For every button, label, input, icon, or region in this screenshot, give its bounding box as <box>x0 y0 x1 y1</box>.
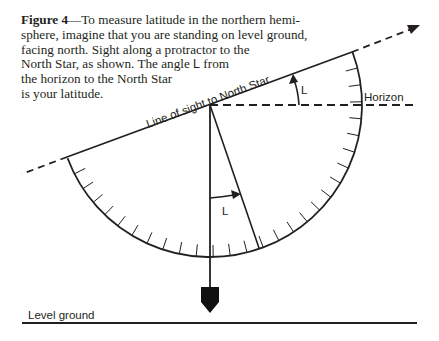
protractor-tick <box>273 230 278 241</box>
protractor-tick <box>287 222 294 232</box>
protractor-tick <box>118 216 125 226</box>
protractor-tick <box>337 163 348 168</box>
horizon-label: Horizon <box>364 91 404 103</box>
protractor-tick <box>349 85 361 87</box>
protractor-tick <box>163 238 167 249</box>
protractor-tick <box>349 118 361 119</box>
protractor-tick <box>196 244 197 256</box>
protractor-tick <box>311 202 320 210</box>
level-ground-label: Level ground <box>28 309 95 321</box>
protractor-tick <box>259 236 263 247</box>
protractor-reading-line <box>210 105 259 248</box>
upper-angle-label: L <box>301 84 308 96</box>
protractor-tick <box>147 232 152 243</box>
latitude-diagram: Horizon Line of sight to North Star L L … <box>0 0 439 341</box>
protractor-tick <box>321 190 331 197</box>
protractor-tick <box>330 177 340 183</box>
protractor-tick <box>93 195 102 203</box>
lower-angle-label: L <box>222 205 229 217</box>
protractor-arc <box>68 52 362 257</box>
protractor-tick <box>244 241 247 253</box>
protractor-tick <box>229 244 231 256</box>
protractor-tick <box>343 148 354 152</box>
lower-angle-arrow <box>210 195 234 198</box>
line-of-sight-dashed-right <box>352 28 414 52</box>
protractor-tick <box>347 133 359 135</box>
protractor-tick <box>300 213 308 222</box>
plumb-bob-icon <box>201 287 219 313</box>
protractor-tick <box>132 225 138 235</box>
protractor-tick <box>83 182 93 189</box>
protractor <box>68 52 362 257</box>
protractor-tick <box>346 68 358 71</box>
line-of-sight-label: Line of sight to North Star <box>145 73 272 130</box>
protractor-tick <box>75 168 86 173</box>
line-of-sight-dashed-left <box>22 157 67 174</box>
upper-angle-arrow <box>294 80 299 105</box>
protractor-tick <box>179 242 181 254</box>
protractor-tick <box>105 206 113 215</box>
